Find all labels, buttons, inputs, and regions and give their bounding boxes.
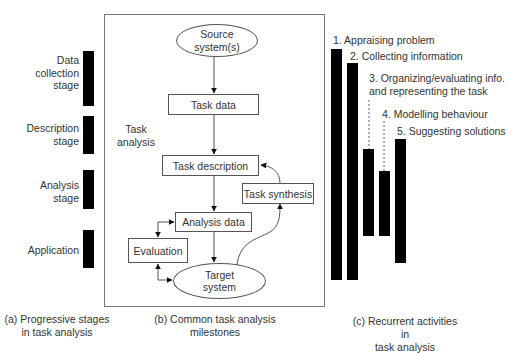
activity-bar-3 (363, 149, 374, 236)
activity-leader-lines (0, 0, 513, 353)
activity-bar-2 (347, 63, 358, 280)
caption-c: (c) Recurrent activities in task analysi… (350, 315, 460, 353)
activity-bar-4 (379, 171, 390, 236)
activity-bar-1 (331, 49, 342, 280)
activity-bar-5 (395, 139, 406, 263)
